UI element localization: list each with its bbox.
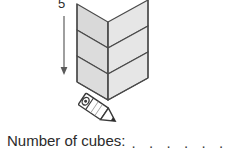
answer-label: Number of cubes: [7, 132, 125, 150]
cube-stack-body [77, 0, 148, 100]
height-label: 5 [58, 0, 65, 10]
answer-row: Number of cubes: . . . . . . . . [7, 131, 235, 151]
answer-blank-dots[interactable]: . . . . . . . . [131, 134, 237, 152]
height-arrow-icon [61, 16, 68, 75]
cube-figure-area: 5 [0, 0, 237, 128]
pencil-icon [78, 93, 119, 127]
worksheet-page: 5 [0, 0, 237, 152]
cube-stack-diagram [0, 0, 237, 128]
